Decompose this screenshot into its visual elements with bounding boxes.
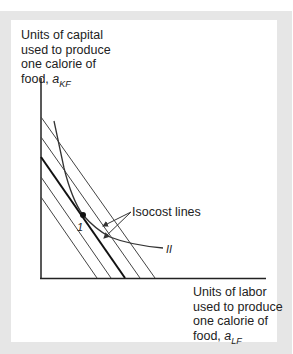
isoquant-curve [54, 121, 163, 248]
isocost-arrow [104, 212, 131, 238]
isocost-line [41, 137, 140, 278]
isocost-line [41, 177, 111, 278]
diagram-canvas: 1 Isocost lines II [0, 0, 293, 354]
tangent-point [80, 212, 86, 218]
isocost-line [41, 197, 97, 278]
isocost-label: Isocost lines [132, 205, 201, 219]
tangent-point-label: 1 [77, 221, 83, 233]
isoquant-label: II [166, 243, 172, 255]
